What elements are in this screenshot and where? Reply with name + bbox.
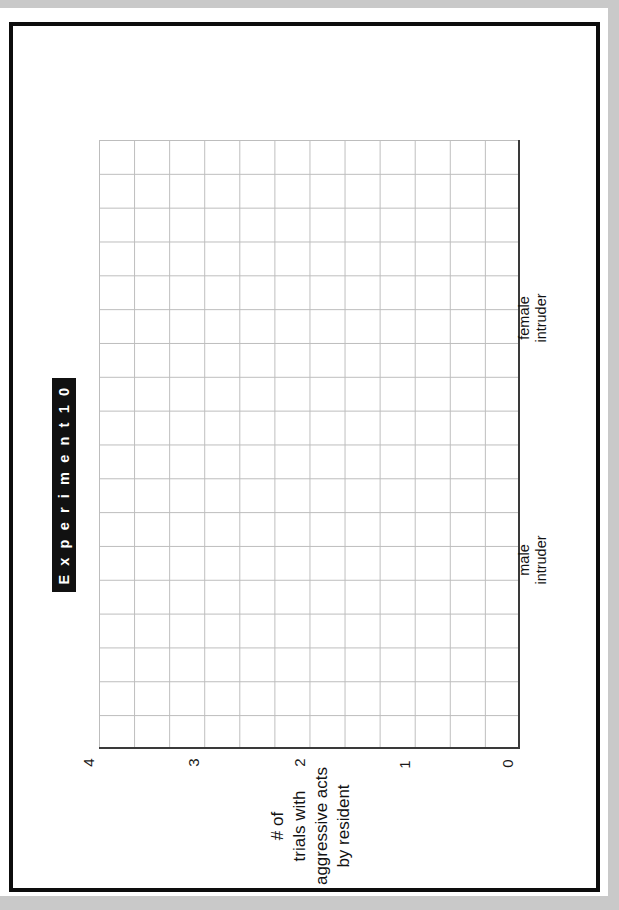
value-axis-title: # of trials with aggressive acts by resi…	[211, 726, 411, 910]
category-label-female-line-2: intruder	[533, 293, 550, 342]
value-axis-title-line-3: aggressive acts	[311, 767, 333, 885]
axis-tick-label-3: 3	[185, 752, 202, 774]
category-label-female-line-1: female	[516, 293, 533, 342]
experiment-title-text: E x p e r i m e n t 1 0	[56, 385, 72, 584]
graph-plot-area[interactable]	[99, 140, 520, 749]
value-axis-title-line-1: # of	[267, 767, 289, 885]
category-label-male-line-1: male	[516, 535, 533, 584]
experiment-title-banner: E x p e r i m e n t 1 0	[52, 378, 76, 592]
category-label-male-intruder: male intruder	[473, 537, 593, 583]
graph-gridlines	[99, 140, 520, 749]
category-label-female-intruder: female intruder	[473, 295, 593, 341]
page-border-frame: E x p e r i m e n t 1 0 4 3 2 1 0 # of t…	[9, 22, 600, 892]
axis-tick-label-0: 0	[499, 753, 516, 775]
category-label-male-line-2: intruder	[533, 535, 550, 584]
value-axis-title-line-2: trials with	[289, 767, 311, 885]
paper-sheet: E x p e r i m e n t 1 0 4 3 2 1 0 # of t…	[0, 8, 608, 896]
axis-tick-label-4: 4	[80, 752, 97, 774]
axis-line-right	[518, 140, 520, 749]
value-axis-title-line-4: by resident	[333, 767, 355, 885]
